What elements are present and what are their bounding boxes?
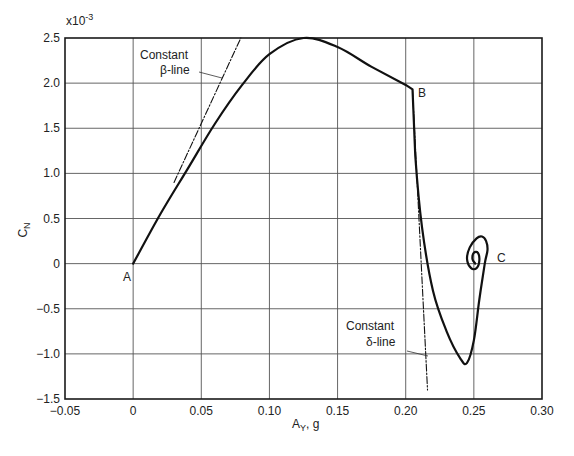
grid-lines (65, 38, 542, 399)
y-tick-label: 0.5 (43, 212, 60, 226)
trajectory-curve (133, 38, 487, 364)
point-c-label: C (497, 251, 506, 265)
x-tick-label: 0.25 (462, 404, 486, 418)
delta-line-label-2: δ-line (366, 335, 396, 349)
y-tick-label: 2.5 (43, 31, 60, 45)
x-tick-label: −0.05 (50, 404, 81, 418)
x-tick-label: 0.05 (190, 404, 214, 418)
x-tick-label: 0.10 (258, 404, 282, 418)
x-axis-label: AY, g (292, 417, 319, 433)
x-tick-label: 0.15 (326, 404, 350, 418)
point-a-label: A (123, 270, 131, 284)
x-tick-label: 0 (130, 404, 137, 418)
y-axis-label: CN (16, 222, 32, 237)
x-axis-ticks: −0.0500.050.100.150.200.250.30 (50, 404, 554, 418)
y-tick-label: 1.5 (43, 121, 60, 135)
y-tick-label: −1.0 (36, 347, 60, 361)
y-tick-label: 2.0 (43, 76, 60, 90)
y-tick-label: 0 (53, 257, 60, 271)
y-tick-label: −0.5 (36, 302, 60, 316)
chart: −0.0500.050.100.150.200.250.30 −1.5−1.0−… (0, 0, 574, 456)
y-axis-ticks: −1.5−1.0−0.500.51.01.52.02.5 (36, 31, 60, 406)
beta-line-label-1: Constant (140, 48, 189, 62)
beta-line-leader (199, 72, 222, 78)
delta-line-label-1: Constant (346, 319, 395, 333)
x-tick-label: 0.20 (394, 404, 418, 418)
y-scale-note: x10-3 (66, 12, 93, 28)
beta-line-label-2: β-line (160, 63, 190, 77)
y-tick-label: 1.0 (43, 166, 60, 180)
point-b-label: B (418, 86, 426, 100)
x-tick-label: 0.30 (530, 404, 554, 418)
data-series (133, 38, 487, 390)
y-tick-label: −1.5 (36, 392, 60, 406)
